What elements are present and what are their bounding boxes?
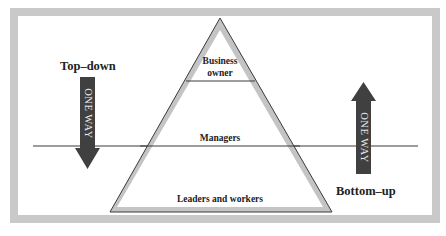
tier-managers: Managers: [180, 134, 260, 144]
top-down-label: Top–down: [60, 60, 116, 73]
tier-business-owner-line2: owner: [190, 69, 250, 79]
bottom-up-label: Bottom–up: [336, 185, 396, 198]
bottom-up-arrow-text: ONE WAY: [359, 112, 370, 160]
top-down-arrow-text: ONE WAY: [83, 88, 94, 136]
tier-leaders-and-workers: Leaders and workers: [160, 195, 280, 205]
tier-business-owner: Business owner: [190, 57, 250, 78]
tier-business-owner-line1: Business: [190, 57, 250, 67]
